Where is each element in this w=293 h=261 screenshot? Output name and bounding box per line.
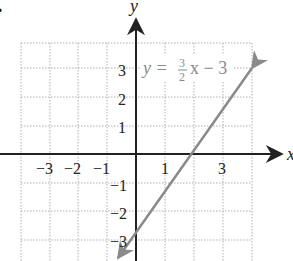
y-tick-label: −2 [110, 205, 127, 222]
x-tick-label: −2 [64, 160, 81, 177]
x-axis-label: x [286, 144, 293, 164]
equation-denominator: 2 [179, 70, 185, 84]
x-tick-label: −1 [93, 160, 110, 177]
y-tick-label: 1 [118, 119, 126, 136]
equation-numerator: 3 [179, 56, 185, 70]
equation-rhs: x − 3 [190, 58, 227, 78]
y-tick-label: −1 [110, 177, 127, 194]
equation-label: y = 3 2 x − 3 [141, 54, 233, 84]
y-tick-label: −3 [110, 233, 127, 250]
equation-lhs: y = [141, 58, 168, 78]
y-axis-label: y [128, 0, 138, 16]
x-tick-label: −3 [36, 160, 53, 177]
graph: y x −3 −2 −1 1 3 3 2 1 −1 −2 −3 y = 3 2 … [0, 0, 293, 261]
x-tick-label: 1 [161, 160, 169, 177]
x-tick-label: 3 [218, 160, 226, 177]
y-tick-label: 2 [118, 91, 126, 108]
y-tick-label: 3 [118, 62, 126, 79]
